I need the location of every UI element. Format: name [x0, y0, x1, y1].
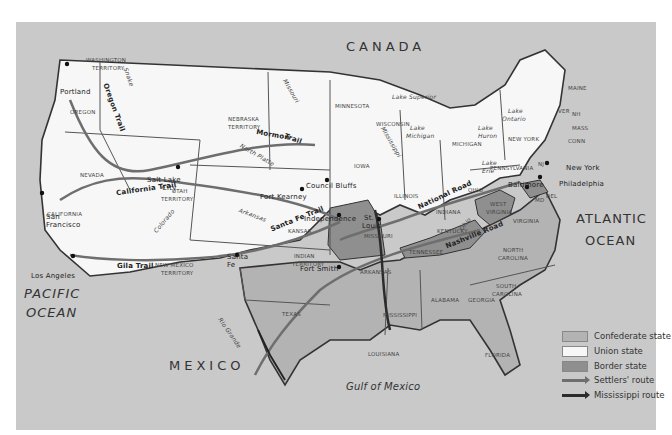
label-fort-kearney: Fort Kearney [260, 194, 307, 201]
label-south-carolina: SOUTH [496, 284, 516, 290]
label-north-carolina-2: CAROLINA [498, 256, 528, 262]
label-new-york: NEW YORK [508, 137, 539, 143]
label-pacific-ocean: OCEAN [26, 306, 77, 319]
label-santa-fe: Fe [227, 262, 235, 269]
label-north-carolina: NORTH [503, 248, 523, 254]
label-st-louis: Louis [362, 223, 381, 230]
label-utah-territory: TERRITORY [161, 197, 193, 203]
label-canada: CANADA [346, 40, 425, 53]
label-lake-ontario-2: Ontario [502, 116, 526, 122]
label-nh: NH [572, 112, 581, 118]
label-indiana: INDIANA [436, 210, 461, 216]
label-vermont: VER [558, 109, 570, 115]
label-nebraska: NEBRASKA [228, 117, 259, 123]
label-council-bluffs: Council Bluffs [306, 183, 357, 190]
label-nevada: NEVADA [80, 173, 104, 179]
legend-swatch-union [562, 346, 588, 357]
label-washington: WASHINGTON [86, 58, 126, 64]
map-shapes [16, 22, 656, 430]
arrow-icon [562, 379, 588, 382]
label-lake-erie-2: Erie [482, 168, 494, 174]
label-nebraska-territory: TERRITORY [228, 125, 260, 131]
label-virginia: VIRGINIA [513, 219, 539, 225]
label-new-mexico-territory: TERRITORY [161, 271, 193, 277]
label-md: MD [535, 198, 544, 204]
label-georgia: GEORGIA [468, 298, 495, 304]
label-oregon: OREGON [70, 110, 96, 116]
label-new-york-city: New York [566, 165, 600, 172]
label-indian: INDIAN [294, 254, 315, 260]
label-san: San [46, 214, 60, 221]
label-baltimore: Baltimore [508, 182, 544, 189]
legend-item-union: Union state [562, 345, 643, 357]
label-mass: MASS [572, 126, 588, 132]
label-lake-huron: Lake [478, 125, 493, 131]
label-lake-michigan-2: Michigan [406, 133, 435, 139]
label-lake-huron-2: Huron [478, 133, 497, 139]
label-portland: Portland [60, 89, 91, 96]
legend-item-mississippi-route: Mississippi route [562, 389, 664, 401]
label-philadelphia: Philadelphia [559, 181, 604, 188]
legend-item-border: Border state [562, 360, 647, 372]
label-west-virginia-2: VIRGINIA [486, 210, 512, 216]
label-los-angeles: Los Angeles [31, 273, 75, 280]
label-lake-ontario: Lake [508, 108, 523, 114]
map-canvas: CANADA MEXICO PACIFIC OCEAN ATLANTIC OCE… [16, 22, 656, 430]
label-gulf-of-mexico: Gulf of Mexico [346, 382, 420, 392]
label-mississippi: MISSISSIPPI [383, 313, 417, 319]
label-atlantic-ocean: OCEAN [585, 234, 636, 247]
label-pacific: PACIFIC [24, 287, 80, 300]
label-illinois: ILLINOIS [394, 194, 419, 200]
label-atlantic: ATLANTIC [576, 212, 647, 225]
label-south-carolina-2: CAROLINA [492, 292, 522, 298]
label-conn: CONN [568, 139, 585, 145]
label-pennsylvania: PENNSYLVANIA [490, 166, 533, 172]
label-fort-smith: Fort Smith [300, 266, 338, 273]
legend-label-confederate: Confederate state [594, 331, 671, 341]
legend-label-settlers-route: Settlers' route [594, 375, 654, 385]
label-santa: Santa [227, 254, 248, 261]
label-missouri: MISSOURI [364, 234, 393, 240]
label-iowa: IOWA [354, 164, 370, 170]
label-gila-trail: Gila Trail [117, 263, 154, 270]
label-kansas: KANSAS [288, 229, 311, 235]
legend-item-confederate: Confederate state [562, 330, 671, 342]
label-maine: MAINE [568, 86, 587, 92]
label-michigan: MICHIGAN [452, 142, 482, 148]
label-mexico: MEXICO [169, 359, 244, 372]
label-florida: FLORIDA [485, 353, 510, 359]
arrow-icon [562, 394, 588, 397]
legend-swatch-confederate [562, 331, 588, 342]
legend-label-mississippi-route: Mississippi route [594, 390, 664, 400]
label-west-virginia: WEST [490, 202, 507, 208]
label-alabama: ALABAMA [431, 298, 459, 304]
label-louisiana: LOUISIANA [368, 352, 399, 358]
label-ohio: OHIO [468, 188, 483, 194]
label-san-francisco: Francisco [46, 222, 81, 229]
legend-item-settlers-route: Settlers' route [562, 374, 654, 386]
label-new-mexico: NEW MEXICO [155, 263, 194, 269]
legend-label-border: Border state [594, 361, 647, 371]
label-tennessee: TENNESSEE [409, 250, 443, 256]
label-minnesota: MINNESOTA [335, 104, 369, 110]
label-lake-michigan: Lake [410, 125, 425, 131]
legend-label-union: Union state [594, 346, 643, 356]
legend-swatch-border [562, 361, 588, 372]
label-nj: NJ [538, 162, 544, 168]
label-del: DEL [546, 194, 557, 200]
label-st: St. [364, 215, 374, 222]
label-lake-erie: Lake [482, 160, 497, 166]
label-lake-superior: Lake Superior [392, 94, 436, 100]
label-washington-territory: TERRITORY [92, 66, 124, 72]
label-arkansas: ARKANSAS [360, 270, 391, 276]
label-texas: TEXAS [282, 312, 301, 318]
